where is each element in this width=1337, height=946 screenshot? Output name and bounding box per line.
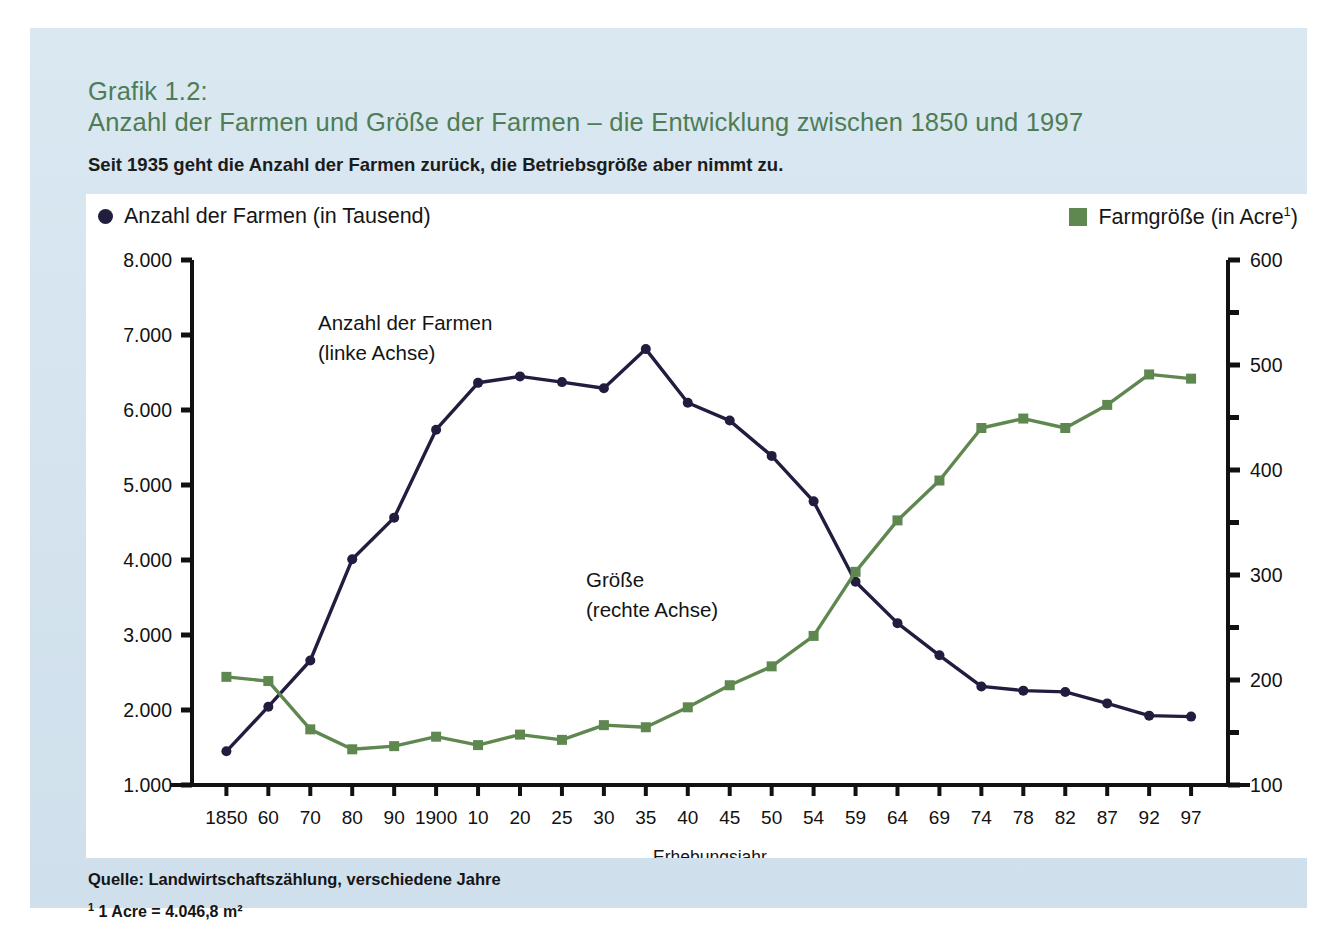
x-axis-tick-label: 80 (342, 807, 363, 828)
data-point-marker[interactable] (1060, 687, 1070, 697)
annotation-size-line2: (rechte Achse) (586, 598, 718, 621)
annotation-size-line1: Größe (586, 568, 644, 591)
x-axis-tick-label: 90 (384, 807, 405, 828)
left-axis-tick-label: 1.000 (123, 774, 172, 796)
x-axis-tick-label: 50 (761, 807, 782, 828)
data-point-marker[interactable] (431, 425, 441, 435)
data-point-marker[interactable] (767, 451, 777, 461)
series-line-farm-size (226, 374, 1191, 749)
x-axis-tick-label: 87 (1097, 807, 1118, 828)
data-point-marker[interactable] (851, 567, 861, 577)
x-axis-tick-label: 25 (551, 807, 572, 828)
x-axis-tick-label: 20 (509, 807, 530, 828)
x-axis-tick-label: 60 (258, 807, 279, 828)
left-axis-tick-label: 5.000 (123, 474, 172, 496)
figure-panel: Grafik 1.2: Anzahl der Farmen und Größe … (30, 28, 1307, 908)
data-point-marker[interactable] (1144, 711, 1154, 721)
x-axis-tick-label: 35 (635, 807, 656, 828)
data-point-marker[interactable] (1144, 369, 1154, 379)
data-point-marker[interactable] (431, 732, 441, 742)
data-point-marker[interactable] (809, 496, 819, 506)
data-point-marker[interactable] (1102, 400, 1112, 410)
data-point-marker[interactable] (809, 631, 819, 641)
data-point-marker[interactable] (725, 416, 735, 426)
x-axis-tick-label: 59 (845, 807, 866, 828)
circle-marker-icon (98, 209, 113, 224)
left-axis-tick-label: 8.000 (123, 249, 172, 271)
chart-card: Anzahl der Farmen (in Tausend) Farmgröße… (86, 194, 1312, 858)
page-root: Grafik 1.2: Anzahl der Farmen und Größe … (0, 0, 1337, 946)
x-axis-tick-label: 70 (300, 807, 321, 828)
data-point-marker[interactable] (683, 398, 693, 408)
data-point-marker[interactable] (473, 740, 483, 750)
data-point-marker[interactable] (221, 672, 231, 682)
data-point-marker[interactable] (892, 618, 902, 628)
x-axis-tick-label: 92 (1139, 807, 1160, 828)
data-point-marker[interactable] (1018, 414, 1028, 424)
chart-legend: Anzahl der Farmen (in Tausend) Farmgröße… (86, 200, 1312, 242)
legend-item-farms[interactable]: Anzahl der Farmen (in Tausend) (98, 204, 431, 229)
data-point-marker[interactable] (641, 344, 651, 354)
data-point-marker[interactable] (599, 720, 609, 730)
data-point-marker[interactable] (599, 383, 609, 393)
x-axis-tick-label: 30 (593, 807, 614, 828)
right-axis-tick-label: 300 (1250, 564, 1283, 586)
left-axis-tick-label: 7.000 (123, 324, 172, 346)
right-axis-tick-label: 200 (1250, 669, 1283, 691)
x-axis-tick-label: 54 (803, 807, 825, 828)
data-point-marker[interactable] (515, 730, 525, 740)
data-point-marker[interactable] (976, 423, 986, 433)
left-axis-tick-label: 3.000 (123, 624, 172, 646)
x-axis-tick-label: 82 (1055, 807, 1076, 828)
data-point-marker[interactable] (934, 650, 944, 660)
data-point-marker[interactable] (1018, 686, 1028, 696)
data-point-marker[interactable] (557, 377, 567, 387)
footnote: 1 1 Acre = 4.046,8 m² (88, 901, 1238, 921)
legend-label-farm-size: Farmgröße (in Acre1) (1098, 204, 1298, 230)
data-point-marker[interactable] (1186, 712, 1196, 722)
x-axis-tick-label: 1850 (205, 807, 247, 828)
data-point-marker[interactable] (557, 735, 567, 745)
x-axis-tick-label: 1900 (415, 807, 457, 828)
data-point-marker[interactable] (389, 741, 399, 751)
legend-label-farms: Anzahl der Farmen (in Tausend) (124, 204, 431, 229)
plot-area: 1.0002.0003.0004.0005.0006.0007.0008.000… (86, 242, 1312, 858)
left-axis-tick-label: 6.000 (123, 399, 172, 421)
data-point-marker[interactable] (221, 746, 231, 756)
figure-label: Grafik 1.2: (88, 76, 1288, 107)
line-chart: 1.0002.0003.0004.0005.0006.0007.0008.000… (86, 242, 1312, 858)
data-point-marker[interactable] (1060, 423, 1070, 433)
data-point-marker[interactable] (892, 515, 902, 525)
data-point-marker[interactable] (305, 656, 315, 666)
data-point-marker[interactable] (641, 722, 651, 732)
right-axis-tick-label: 400 (1250, 459, 1283, 481)
left-axis-tick-label: 2.000 (123, 699, 172, 721)
x-axis-tick-label: 74 (971, 807, 993, 828)
data-point-marker[interactable] (1102, 698, 1112, 708)
subtitle: Seit 1935 geht die Anzahl der Farmen zur… (88, 154, 783, 176)
data-point-marker[interactable] (976, 681, 986, 691)
data-point-marker[interactable] (934, 476, 944, 486)
data-point-marker[interactable] (1186, 374, 1196, 384)
data-point-marker[interactable] (347, 554, 357, 564)
data-point-marker[interactable] (305, 724, 315, 734)
annotation-farms-line1: Anzahl der Farmen (318, 311, 492, 334)
annotation-farms-line2: (linke Achse) (318, 341, 435, 364)
data-point-marker[interactable] (263, 676, 273, 686)
legend-item-farm-size[interactable]: Farmgröße (in Acre1) (1069, 204, 1298, 230)
data-point-marker[interactable] (473, 378, 483, 388)
chart-footer: Quelle: Landwirtschaftszählung, verschie… (88, 870, 1238, 921)
data-point-marker[interactable] (683, 702, 693, 712)
right-axis-tick-label: 500 (1250, 354, 1283, 376)
x-axis-tick-label: 45 (719, 807, 740, 828)
series-line-farms (226, 349, 1191, 751)
data-point-marker[interactable] (725, 680, 735, 690)
right-axis-tick-label: 100 (1250, 774, 1283, 796)
data-point-marker[interactable] (389, 513, 399, 523)
source-note: Quelle: Landwirtschaftszählung, verschie… (88, 870, 1238, 889)
data-point-marker[interactable] (515, 371, 525, 381)
data-point-marker[interactable] (767, 661, 777, 671)
data-point-marker[interactable] (347, 744, 357, 754)
data-point-marker[interactable] (263, 702, 273, 712)
x-axis-tick-label: 10 (467, 807, 488, 828)
